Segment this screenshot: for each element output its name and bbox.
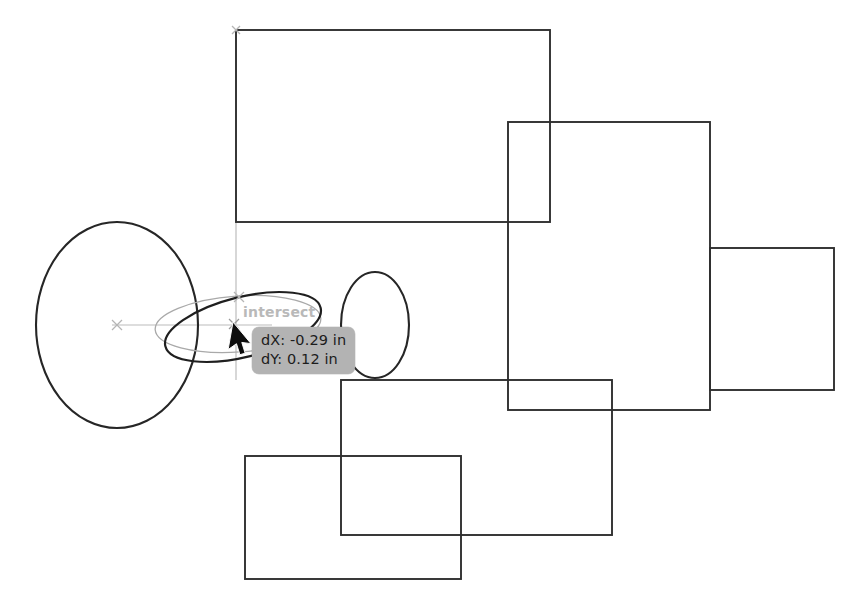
rectangles-group[interactable] — [236, 30, 834, 579]
snap-markers-group — [112, 26, 244, 330]
drag-delta-x-line: dX: -0.29 in — [261, 331, 346, 350]
rect-bottom-left[interactable] — [245, 456, 461, 579]
rect-far-right[interactable] — [710, 248, 834, 390]
drawing-surface[interactable] — [0, 0, 863, 610]
drag-delta-y-line: dY: 0.12 in — [261, 350, 346, 369]
rect-top[interactable] — [236, 30, 550, 222]
cad-canvas[interactable]: intersect dX: -0.29 in dY: 0.12 in — [0, 0, 863, 610]
rect-lower-middle[interactable] — [341, 380, 612, 535]
guide-lines-group — [112, 30, 272, 380]
rect-center-right[interactable] — [508, 122, 710, 410]
drag-delta-tooltip: dX: -0.29 in dY: 0.12 in — [252, 327, 355, 374]
